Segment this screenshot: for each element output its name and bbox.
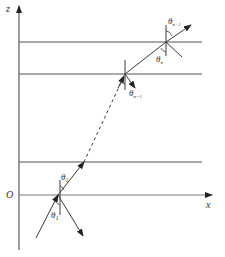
layered-media-diagram: z x O θ1 θ1 θn−1 θn θn+1 — [0, 0, 225, 257]
angle-arc-1-lower — [55, 201, 60, 205]
origin-label: O — [6, 189, 13, 200]
angle-arc-n-plus-1 — [166, 31, 172, 36]
reflected-ray-n — [125, 74, 135, 88]
x-axis-label: x — [205, 199, 211, 210]
theta-n-minus-1-label: θn−1 — [129, 88, 142, 99]
theta-1-lower-label: θ1 — [51, 210, 58, 221]
reflected-ray-top — [166, 42, 182, 57]
z-axis-label: z — [5, 3, 10, 14]
angle-arc-n — [161, 48, 166, 52]
outgoing-ray — [166, 25, 191, 42]
theta-n-label: θn — [156, 54, 163, 65]
reflected-ray-1 — [58, 195, 83, 236]
theta-n-plus-1-label: θn+1 — [168, 16, 181, 27]
theta-1-upper-label: θ1 — [61, 172, 68, 183]
